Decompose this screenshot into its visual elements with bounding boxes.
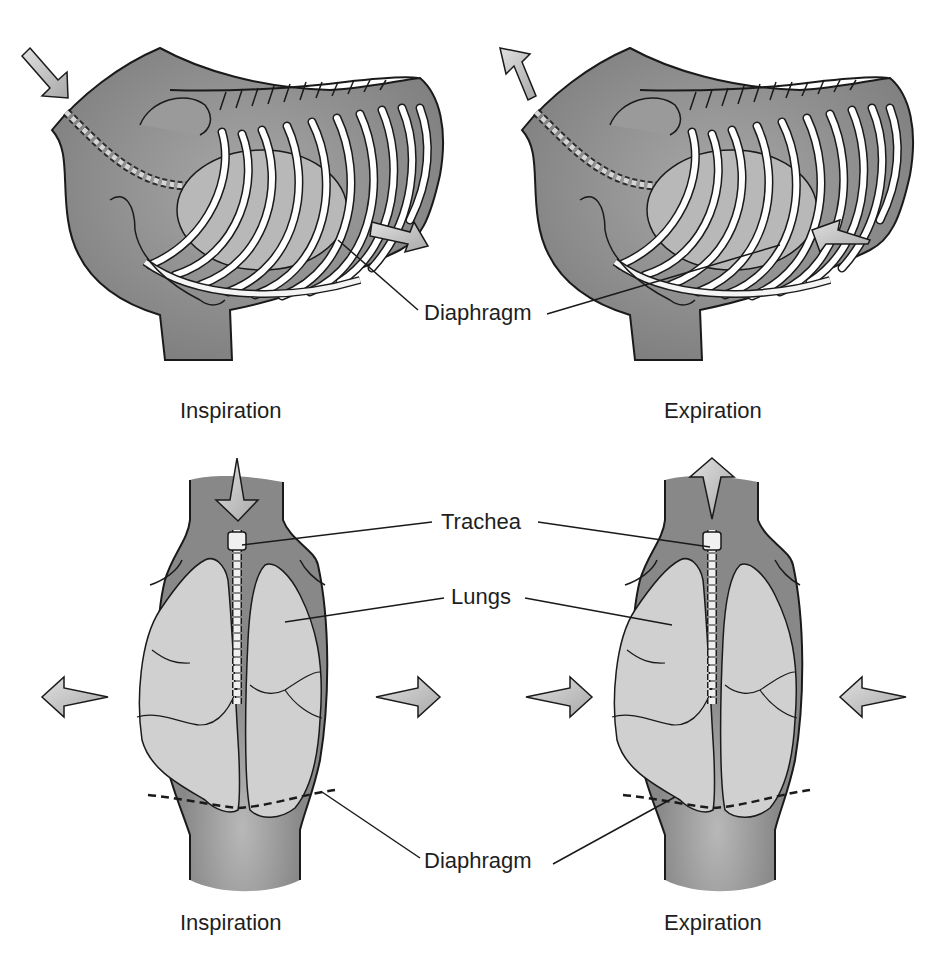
label-trachea: Trachea (441, 511, 521, 533)
arrow-outward-cranial-icon (500, 48, 536, 100)
caption-top-left: Inspiration (180, 400, 282, 422)
arrow-inward-left-icon (526, 677, 592, 717)
label-diaphragm-lateral: Diaphragm (424, 302, 532, 324)
label-diaphragm-dorsal: Diaphragm (424, 850, 532, 872)
arrow-outward-left-icon (42, 677, 108, 717)
panel-dorsal-inspiration (42, 458, 444, 891)
panel-dorsal-expiration (525, 458, 906, 891)
caption-bottom-right: Expiration (664, 912, 762, 934)
respiration-diagram (0, 0, 942, 955)
arrow-inward-cranial-icon (22, 48, 68, 98)
arrow-outward-right-icon (376, 677, 440, 717)
label-lungs: Lungs (451, 586, 511, 608)
panel-lateral-inspiration (22, 48, 443, 360)
caption-top-right: Expiration (664, 400, 762, 422)
arrow-inward-right-icon (840, 677, 906, 717)
panel-lateral-expiration (500, 48, 913, 360)
caption-bottom-left: Inspiration (180, 912, 282, 934)
truncated-figure-caption (40, 948, 920, 955)
